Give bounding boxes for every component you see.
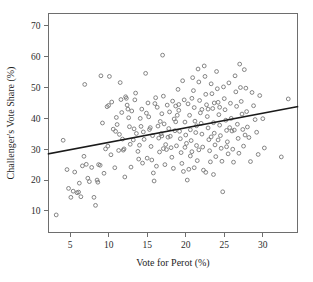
scatter-point (231, 147, 235, 151)
scatter-point (250, 91, 254, 95)
scatter-point (67, 186, 71, 190)
scatter-point (228, 126, 232, 130)
scatter-point (233, 74, 237, 78)
y-tick-label: 30 (31, 145, 41, 155)
scatter-point (127, 116, 131, 120)
scatter-point (140, 107, 144, 111)
scatter-point (160, 112, 164, 116)
scatter-point (182, 170, 186, 174)
scatter-point (196, 67, 200, 71)
scatter-point (212, 131, 216, 135)
scatter-point (215, 70, 219, 74)
scatter-point (208, 149, 212, 153)
chart-page: 51015202530 10203040506070 Vote for Pero… (0, 0, 313, 282)
scatter-point (197, 80, 201, 84)
scatter-point (115, 123, 119, 127)
scatter-point (142, 137, 146, 141)
scatter-point (92, 195, 96, 199)
scatter-point (170, 155, 174, 159)
scatter-point (214, 155, 218, 159)
scatter-point (210, 92, 214, 96)
scatter-point (226, 152, 230, 156)
scatter-point (208, 160, 212, 164)
scatter-point (181, 79, 185, 83)
scatter-point (54, 213, 58, 217)
scatter-point (223, 108, 227, 112)
scatter-point (137, 157, 141, 161)
scatter-point (225, 140, 229, 144)
scatter-point (219, 134, 223, 138)
scatter-point (152, 179, 156, 183)
scatter-point (77, 181, 81, 185)
scatter-point (194, 131, 198, 135)
scatter-point (113, 166, 117, 170)
scatter-point (205, 103, 209, 107)
scatter-point (242, 68, 246, 72)
scatter-point (255, 130, 259, 134)
scatter-point (221, 190, 225, 194)
scatter-point (239, 100, 243, 104)
scatter-point (138, 116, 142, 120)
scatter-point (141, 130, 145, 134)
scatter-point (195, 144, 199, 148)
scatter-point (184, 133, 188, 137)
scatter-point (239, 86, 243, 90)
scatter-point (126, 107, 130, 111)
scatter-point (90, 166, 94, 170)
scatter-point (215, 87, 219, 91)
scatter-point (71, 189, 75, 193)
scatter-point (118, 81, 122, 85)
scatter-point (101, 121, 105, 125)
scatter-point (218, 123, 222, 127)
scatter-point (109, 153, 113, 157)
scatter-point (256, 153, 260, 157)
scatter-point (192, 89, 196, 93)
scatter-point (117, 149, 121, 153)
scatter-point (202, 168, 206, 172)
scatter-point (165, 103, 169, 107)
scatter-point (133, 98, 137, 102)
scatter-point (258, 94, 262, 98)
scatter-point (188, 154, 192, 158)
scatter-point (227, 81, 231, 85)
scatter-point (204, 170, 208, 174)
scatter-point (81, 164, 85, 168)
y-axis-ticks (44, 26, 48, 211)
scatter-point (128, 125, 132, 129)
scatter-point (119, 98, 123, 102)
scatter-point (141, 161, 145, 165)
scatter-point (118, 133, 122, 137)
scatter-point (188, 128, 192, 132)
scatter-point (114, 116, 118, 120)
scatter-point (99, 74, 103, 78)
scatter-point (235, 104, 239, 108)
scatter-point (158, 150, 162, 154)
scatter-plot: 51015202530 10203040506070 Vote for Pero… (0, 0, 313, 282)
scatter-point (125, 103, 129, 107)
scatter-point (203, 75, 207, 79)
scatter-point (234, 90, 238, 94)
scatter-point (145, 111, 149, 115)
scatter-point (128, 142, 132, 146)
scatter-point (201, 145, 205, 149)
scatter-point (192, 106, 196, 110)
scatter-point (286, 97, 290, 101)
scatter-point (168, 110, 172, 114)
scatter-point (79, 195, 83, 199)
scatter-point (229, 101, 233, 105)
scatter-point (232, 160, 236, 164)
scatter-point (222, 97, 226, 101)
scatter-point (244, 86, 248, 90)
scatter-point (120, 111, 124, 115)
scatter-point (65, 168, 69, 172)
scatter-point (219, 146, 223, 150)
scatter-point (82, 154, 86, 158)
scatter-point (108, 75, 112, 79)
scatter-point (69, 195, 73, 199)
scatter-point (237, 151, 241, 155)
scatter-point (136, 149, 140, 153)
scatter-point (132, 127, 136, 131)
scatter-point (144, 71, 148, 75)
scatter-point (153, 102, 157, 106)
y-tick-label: 60 (31, 52, 41, 62)
